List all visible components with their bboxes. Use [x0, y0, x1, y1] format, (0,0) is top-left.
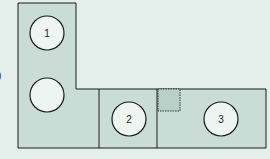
- edge-mark: ): [0, 70, 1, 81]
- circle-empty: [30, 78, 64, 112]
- circle-3-label: 3: [218, 114, 224, 125]
- circle-2-label: 2: [126, 114, 132, 125]
- circle-1-label: 1: [44, 28, 50, 39]
- layout-diagram: 1 2 3 ): [0, 0, 270, 159]
- dotted-square: [158, 89, 180, 111]
